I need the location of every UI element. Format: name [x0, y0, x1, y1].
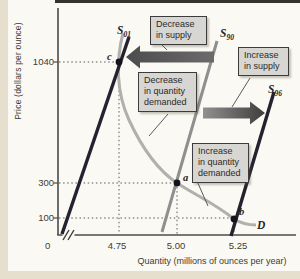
point-c-dot: [116, 59, 123, 66]
point-a-dot: [174, 180, 181, 187]
decrease-quantity-demanded-callout: Decrease in quantity demanded: [138, 72, 197, 112]
y-tick-100: 100: [28, 212, 54, 223]
s96-curve-label: S96: [268, 83, 282, 98]
y-tick-1040: 1040: [28, 56, 54, 67]
y-axis-title: Price (dollars per ounce): [13, 8, 23, 134]
y-tick-300: 300: [28, 177, 54, 188]
origin-label: 0: [45, 240, 50, 251]
x-tick-5-00: 5.00: [163, 240, 189, 251]
decrease-supply-arrow-icon: [126, 46, 214, 69]
x-tick-5-25: 5.25: [225, 240, 251, 251]
increase-quantity-demanded-callout: Increase in quantity demanded: [192, 143, 249, 183]
supply-curve-s01: [62, 37, 129, 234]
decrease-supply-callout: Decrease in supply: [150, 16, 207, 45]
x-tick-4-75: 4.75: [104, 240, 130, 251]
s01-curve-label: S01: [117, 24, 131, 39]
point-b-dot: [231, 216, 238, 223]
point-c-label: c: [107, 51, 112, 62]
increase-supply-callout: Increase in supply: [238, 47, 289, 76]
increase-supply-arrow-icon: [203, 102, 265, 125]
textbook-figure-page: Price (dollars per ounce) Quantity (mill…: [0, 0, 300, 279]
point-b-label: b: [239, 206, 244, 217]
point-a-label: a: [183, 172, 188, 183]
x-axis-title: Quantity (millions of ounces per year): [122, 256, 300, 266]
demand-curve-label: D: [257, 219, 265, 231]
s90-curve-label: S90: [220, 27, 234, 42]
